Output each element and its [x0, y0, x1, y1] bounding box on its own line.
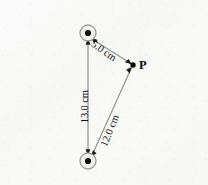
- distance-label-vertical: 13.0 cm: [80, 90, 91, 123]
- point-label-p: P: [139, 59, 147, 72]
- physics-figure: 5.0 cm 13.0 cm 12.0 cm P: [0, 0, 208, 185]
- point-p-dot: [130, 62, 135, 67]
- bottom-charge-marker-dot: [85, 158, 91, 164]
- top-charge-marker-dot: [85, 30, 91, 36]
- diagram-canvas: [0, 0, 208, 185]
- arrowhead-bottom-to-p-end: [126, 67, 132, 73]
